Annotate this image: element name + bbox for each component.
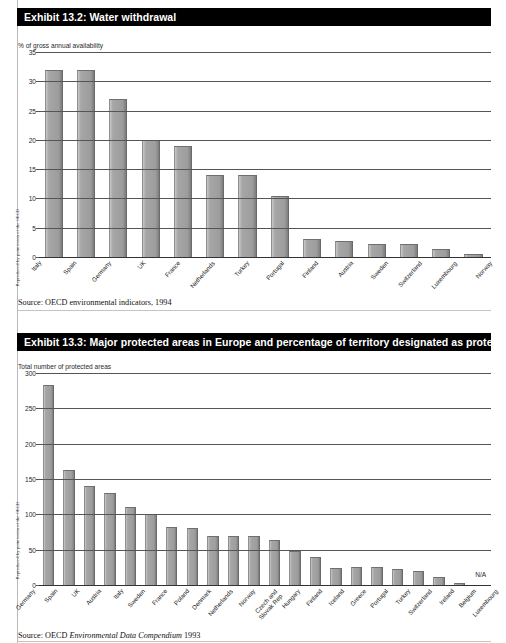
category-label: Turkey	[229, 257, 264, 307]
bar	[368, 244, 386, 257]
category-label: Finland	[298, 257, 333, 307]
chart2-y-tick-mark	[36, 479, 39, 480]
category-label: France	[153, 585, 175, 635]
chart2-y-tick-mark	[36, 373, 39, 374]
na-annotation: N/A	[475, 571, 486, 578]
bar	[392, 569, 404, 585]
bar	[63, 470, 75, 585]
page: Reproduced by permission of the OECD Rep…	[0, 0, 506, 643]
chart2-source-title: Environmental Data Compendium	[69, 631, 182, 640]
bar-slot	[330, 52, 362, 257]
bar	[238, 175, 256, 257]
bar	[248, 536, 260, 585]
chart1-source-text: Source: OECD environmental indicators, 1…	[18, 298, 171, 307]
category-label-text: Norway	[474, 259, 493, 279]
bar	[371, 567, 383, 585]
category-label-text: Germany	[90, 259, 112, 283]
chart1-y-tick-mark	[36, 52, 39, 53]
exhibit-title-bar-13-2: Exhibit 13.2: Water withdrawal	[17, 8, 491, 26]
category-label: Portugal	[374, 585, 396, 635]
bar	[84, 486, 96, 585]
chart2-y-tick-mark	[36, 550, 39, 551]
bar	[433, 577, 445, 585]
bar	[335, 241, 353, 257]
chart1-y-tick: 20	[29, 136, 36, 143]
chart-protected-areas: N/A 050100150200250300	[18, 373, 491, 585]
chart2-gridline	[39, 444, 491, 445]
bar-slot	[297, 52, 329, 257]
category-label-text: France	[163, 259, 181, 278]
category-label: UK	[65, 585, 87, 635]
chart1-y-tick-mark	[36, 140, 39, 141]
category-label: Austria	[333, 257, 368, 307]
bar	[187, 528, 199, 585]
category-label: Germany	[21, 585, 43, 635]
category-label: Hungary	[286, 585, 308, 635]
category-label-text: Portugal	[264, 259, 285, 281]
chart2-y-tick: 50	[29, 546, 36, 553]
chart2-y-tick: 200	[25, 440, 36, 447]
bar	[109, 99, 127, 257]
bar	[289, 551, 301, 585]
bar	[432, 249, 450, 257]
bar	[45, 70, 63, 257]
chart-water-withdrawal: 05101520253035	[18, 52, 491, 257]
bar	[125, 507, 137, 585]
category-label-text: Poland	[173, 587, 191, 606]
category-label: Sweden	[131, 585, 153, 635]
chart2-y-tick: 150	[25, 476, 36, 483]
exhibit-title-bar-13-3: Exhibit 13.3: Major protected areas in E…	[17, 333, 491, 351]
chart1-source: Source: OECD environmental indicators, 1…	[18, 298, 171, 307]
chart1-y-tick: 10	[29, 195, 36, 202]
bar	[174, 146, 192, 257]
bar	[413, 571, 425, 585]
category-label-text: Iceland	[326, 587, 345, 607]
chart2-gridline	[39, 408, 491, 409]
chart2-y-tick: 250	[25, 405, 36, 412]
category-label-text: Spain	[43, 587, 59, 604]
bar-slot	[136, 52, 168, 257]
chart2-gridline	[39, 373, 491, 374]
bar	[104, 493, 116, 585]
chart1-plot-area: 05101520253035	[39, 52, 491, 257]
category-label: Luxembourg	[484, 585, 506, 635]
bar-slot	[426, 52, 458, 257]
category-label-text: France	[151, 587, 169, 606]
bar-slot	[459, 52, 491, 257]
bar-slot	[71, 52, 103, 257]
chart2-gridline	[39, 479, 491, 480]
category-label: Ireland	[440, 585, 462, 635]
category-label-text: Italy	[30, 259, 43, 272]
chart1-y-tick: 15	[29, 166, 36, 173]
chart1-gridline	[39, 140, 491, 141]
chart2-y-tick: 100	[25, 511, 36, 518]
exhibit-title-13-2: Exhibit 13.2: Water withdrawal	[17, 11, 176, 23]
category-label-text: Austria	[84, 587, 102, 606]
category-label: Netherlands	[219, 585, 241, 635]
category-label: Greece	[352, 585, 374, 635]
chart2-y-tick-mark	[36, 444, 39, 445]
divider-2	[18, 641, 491, 642]
chart1-gridline	[39, 198, 491, 199]
category-label: Netherlands	[194, 257, 229, 307]
category-label-text: Italy	[112, 587, 125, 600]
chart2-y-tick-mark	[36, 514, 39, 515]
chart1-y-tick-mark	[36, 169, 39, 170]
category-label-text: Sweden	[369, 259, 389, 280]
exhibit-title-13-3: Exhibit 13.3: Major protected areas in E…	[17, 336, 506, 348]
bar	[271, 196, 289, 258]
chart1-gridline	[39, 228, 491, 229]
chart2-gridline	[39, 550, 491, 551]
chart2-source-suffix: 1993	[182, 631, 200, 640]
category-label-text: Finland	[301, 259, 320, 279]
chart1-y-tick: 25	[29, 107, 36, 114]
chart1-y-tick-mark	[36, 81, 39, 82]
divider-1	[18, 310, 491, 311]
bar	[228, 536, 240, 585]
bar	[330, 568, 342, 585]
bar-slot	[168, 52, 200, 257]
category-label-text: Turkey	[233, 259, 251, 278]
chart2-source-prefix: Source: OECD	[18, 631, 69, 640]
chart2-source: Source: OECD Environmental Data Compendi…	[18, 631, 200, 640]
chart1-y-tick-mark	[36, 198, 39, 199]
